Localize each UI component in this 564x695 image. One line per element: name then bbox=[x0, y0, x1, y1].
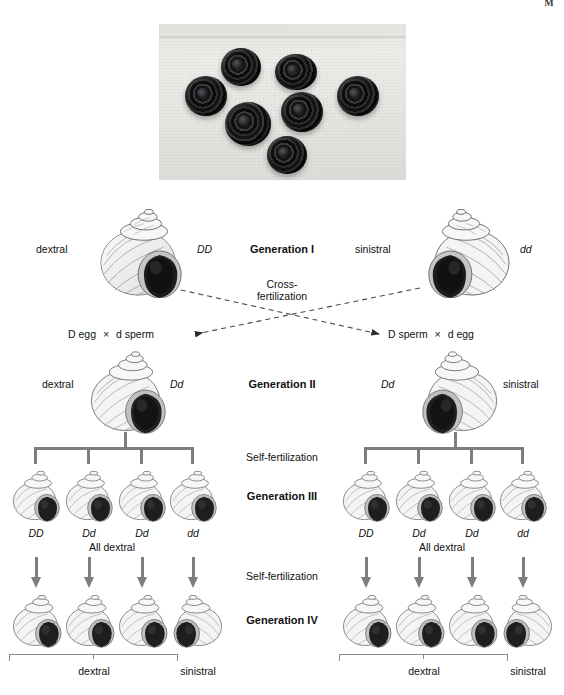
pedigree-bracket-right-gen2 bbox=[330, 432, 564, 464]
shell-generation4-right-3 bbox=[446, 592, 504, 648]
shell-generation2-right bbox=[412, 348, 502, 434]
shell-generation4-left-1 bbox=[10, 592, 68, 648]
snail-photograph bbox=[159, 24, 406, 180]
shell-generation3-right-2 bbox=[393, 468, 449, 522]
photo-shell bbox=[221, 48, 261, 86]
photo-shell bbox=[281, 92, 323, 132]
gamete-right-operator: × bbox=[431, 328, 445, 340]
shell-generation3-left-1 bbox=[10, 468, 66, 522]
pedigree-bracket-left-gen2 bbox=[0, 432, 230, 464]
shell-generation3-right-3 bbox=[446, 468, 502, 522]
gamete-left-type2: sperm bbox=[122, 328, 154, 340]
self-fert-arrow-right-4 bbox=[518, 557, 528, 588]
self-fert-arrow-left-3 bbox=[137, 557, 147, 588]
self-fert-arrow-left-4 bbox=[188, 557, 198, 588]
g4-right-dextral-label: dextral bbox=[408, 665, 440, 677]
g3-left-summary: All dextral bbox=[89, 541, 135, 553]
g4-left-dextral-bracket bbox=[9, 654, 178, 662]
shell-generation3-right-1 bbox=[340, 468, 396, 522]
g3-left-genotype-3: Dd bbox=[135, 527, 148, 539]
self-fert-arrow-left-1 bbox=[31, 557, 41, 588]
g3-left-genotype-4: dd bbox=[187, 527, 199, 539]
gamete-left-operator: × bbox=[99, 328, 113, 340]
gamete-right-type1: sperm bbox=[396, 328, 428, 340]
shell-generation4-right-4-sinistral bbox=[497, 592, 555, 648]
g3-right-summary: All dextral bbox=[419, 541, 465, 553]
photo-shell bbox=[337, 76, 379, 116]
shell-generation4-right-1 bbox=[340, 592, 398, 648]
running-head: M bbox=[544, 0, 554, 8]
photo-shell bbox=[225, 102, 271, 146]
g4-right-sinistral-label: sinistral bbox=[510, 665, 546, 677]
shell-generation4-left-4-sinistral bbox=[167, 592, 225, 648]
g1-left-genotype: DD bbox=[197, 243, 212, 255]
shell-generation1-left bbox=[95, 206, 193, 298]
shell-generation2-left bbox=[86, 348, 176, 434]
g3-process-label: Self-fertilization bbox=[246, 570, 318, 582]
g2-left-genotype: Dd bbox=[170, 378, 183, 390]
shell-generation3-left-2 bbox=[63, 468, 119, 522]
g4-title: Generation IV bbox=[246, 614, 318, 626]
g1-right-phenotype: sinistral bbox=[355, 243, 391, 255]
cross-fertilization-label-line1: Cross- bbox=[267, 278, 298, 290]
g1-right-genotype: dd bbox=[520, 243, 532, 255]
photo-shell bbox=[267, 136, 307, 174]
g3-left-genotype-1: DD bbox=[28, 527, 43, 539]
g3-right-genotype-2: Dd bbox=[412, 527, 425, 539]
shell-generation3-left-3 bbox=[116, 468, 172, 522]
gamete-cross-left: D egg × d sperm bbox=[68, 328, 154, 340]
gamete-left-allele1: D bbox=[68, 328, 76, 340]
g3-title: Generation III bbox=[247, 490, 317, 502]
photo-shell bbox=[275, 54, 317, 90]
gamete-right-allele1: D bbox=[388, 328, 396, 340]
g3-right-genotype-1: DD bbox=[358, 527, 373, 539]
self-fert-arrow-right-2 bbox=[414, 557, 424, 588]
self-fert-arrow-right-1 bbox=[361, 557, 371, 588]
shell-generation4-left-3 bbox=[116, 592, 174, 648]
shell-generation3-left-4 bbox=[167, 468, 223, 522]
self-fert-arrow-right-3 bbox=[467, 557, 477, 588]
shell-generation4-left-2 bbox=[63, 592, 121, 648]
g2-process-label: Self-fertilization bbox=[246, 451, 318, 463]
shell-generation1-right bbox=[417, 206, 515, 298]
figure-root: M bbox=[0, 0, 564, 695]
g2-right-genotype: Dd bbox=[381, 378, 394, 390]
g4-left-dextral-label: dextral bbox=[78, 665, 110, 677]
g3-right-genotype-4: dd bbox=[517, 527, 529, 539]
shell-generation3-right-4 bbox=[497, 468, 553, 522]
g1-title: Generation I bbox=[250, 243, 314, 255]
g2-left-phenotype: dextral bbox=[42, 378, 74, 390]
gamete-right-type2: egg bbox=[454, 328, 474, 340]
g2-right-phenotype: sinistral bbox=[503, 378, 539, 390]
photo-shell bbox=[185, 76, 227, 116]
self-fert-arrow-left-2 bbox=[84, 557, 94, 588]
gamete-cross-right: D sperm × d egg bbox=[388, 328, 474, 340]
g3-right-genotype-3: Dd bbox=[465, 527, 478, 539]
cross-fertilization-label-line2: fertilization bbox=[257, 290, 307, 302]
g4-left-sinistral-label: sinistral bbox=[180, 665, 216, 677]
g3-left-genotype-2: Dd bbox=[82, 527, 95, 539]
g4-right-dextral-bracket bbox=[339, 654, 508, 662]
g2-title: Generation II bbox=[248, 378, 315, 390]
gamete-left-type1: egg bbox=[76, 328, 96, 340]
g1-left-phenotype: dextral bbox=[36, 243, 68, 255]
shell-generation4-right-2 bbox=[393, 592, 451, 648]
